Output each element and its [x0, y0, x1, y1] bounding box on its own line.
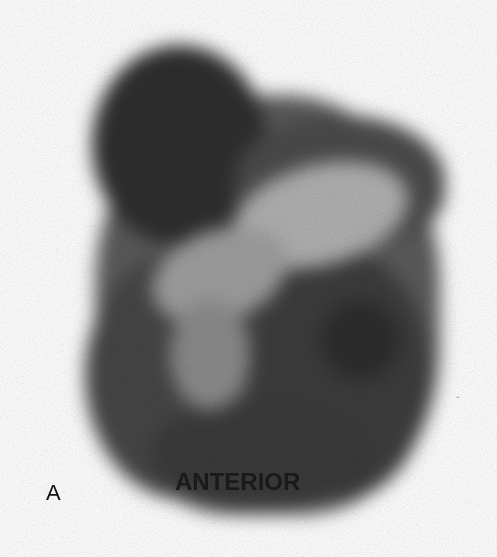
edge-mark: ˬ	[456, 386, 460, 398]
view-label: ANTERIOR	[175, 468, 300, 496]
panel-label: A	[46, 480, 61, 506]
